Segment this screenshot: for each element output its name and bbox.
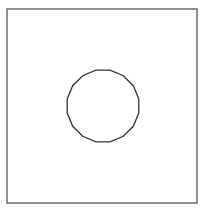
diagram-canvas — [0, 0, 209, 213]
circle-shape — [67, 70, 139, 142]
square-frame — [7, 9, 197, 203]
